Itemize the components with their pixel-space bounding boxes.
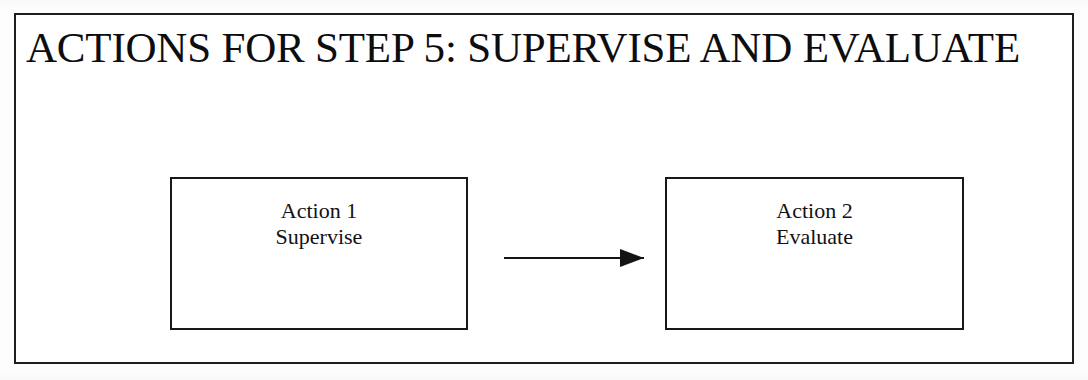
arrow-head	[620, 249, 644, 267]
flow-node-action-1-label: Action 1 Supervise	[172, 198, 466, 250]
flow-node-action-1-line1: Action 1	[281, 198, 357, 223]
flow-node-action-2-line1: Action 2	[776, 198, 852, 223]
arrow-right-icon	[490, 247, 652, 269]
flow-node-action-2-label: Action 2 Evaluate	[667, 198, 962, 250]
flow-node-action-2-line2: Evaluate	[667, 224, 962, 250]
page-title: ACTIONS FOR STEP 5: SUPERVISE AND EVALUA…	[26, 20, 1066, 76]
flow-node-action-2[interactable]: Action 2 Evaluate	[665, 177, 964, 330]
flow-node-action-1-line2: Supervise	[172, 224, 466, 250]
diagram-outer-frame: ACTIONS FOR STEP 5: SUPERVISE AND EVALUA…	[14, 13, 1074, 364]
page-canvas: ACTIONS FOR STEP 5: SUPERVISE AND EVALUA…	[0, 0, 1088, 380]
flow-node-action-1[interactable]: Action 1 Supervise	[170, 177, 468, 330]
arrow-connector	[490, 247, 652, 269]
